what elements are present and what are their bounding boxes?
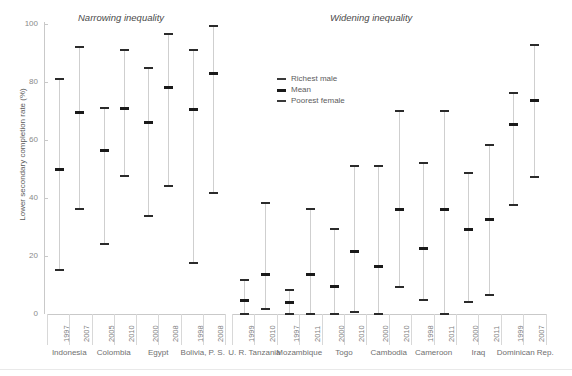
range-mark-poorest-female <box>306 313 315 315</box>
range-stem <box>310 209 311 313</box>
range-stem <box>468 173 469 302</box>
x-axis-year-label: 2008 <box>216 325 225 342</box>
range-mark-mean <box>120 107 129 110</box>
x-axis-year-label: 2000 <box>151 325 160 342</box>
range-mark-mean <box>164 86 173 89</box>
y-tick-label-60: 60 <box>12 136 38 144</box>
y-tick-label-0: 0 <box>12 310 38 318</box>
range-mark-poorest-female <box>330 313 339 315</box>
group-separator <box>456 314 457 345</box>
range-mark-poorest-female <box>209 192 218 194</box>
range-mark-richest-male <box>350 165 359 167</box>
range-mark-richest-male <box>164 33 173 35</box>
x-axis-year-label: 2005 <box>107 325 116 342</box>
x-axis-year-label: 2010 <box>357 325 366 342</box>
group-separator <box>501 314 502 345</box>
y-tick-mark-80 <box>45 82 48 83</box>
range-mark-richest-male <box>120 49 129 51</box>
range-stem <box>399 111 400 288</box>
x-axis-year-label: 2010 <box>268 325 277 342</box>
range-mark-richest-male <box>100 107 109 109</box>
range-mark-poorest-female <box>419 299 428 301</box>
range-stem <box>354 166 355 312</box>
range-mark-richest-male <box>75 46 84 48</box>
range-mark-poorest-female <box>530 176 539 178</box>
range-mark-mean <box>374 265 383 268</box>
range-mark-richest-male <box>530 44 539 46</box>
range-mark-poorest-female <box>285 313 294 315</box>
x-axis-year-label: 1997 <box>292 325 301 342</box>
range-mark-mean <box>464 228 473 231</box>
x-axis-year-label: 1998 <box>196 325 205 342</box>
group-separator <box>92 314 93 345</box>
range-mark-mean <box>285 301 294 304</box>
range-stem <box>124 50 125 176</box>
y-tick-label-100: 100 <box>12 20 38 28</box>
legend-swatch-mean <box>277 89 286 92</box>
range-mark-mean <box>100 149 109 152</box>
range-mark-poorest-female <box>374 313 383 315</box>
range-stem <box>265 203 266 309</box>
y-tick-mark-20 <box>45 256 48 257</box>
x-axis-year-label: 2010 <box>127 325 136 342</box>
range-mark-richest-male <box>485 144 494 146</box>
range-mark-richest-male <box>189 49 198 51</box>
range-mark-richest-male <box>285 289 294 291</box>
range-mark-poorest-female <box>164 185 173 187</box>
panel-title-widening: Widening inequality <box>330 12 412 23</box>
x-axis-year-label: 1999 <box>247 325 256 342</box>
range-mark-poorest-female <box>485 294 494 296</box>
range-mark-richest-male <box>240 279 249 281</box>
range-mark-mean <box>55 168 64 171</box>
legend-label-mean: Mean <box>291 85 311 94</box>
y-tick-mark-100 <box>45 24 48 25</box>
range-mark-poorest-female <box>189 262 198 264</box>
range-mark-richest-male <box>509 92 518 94</box>
range-mark-poorest-female <box>464 301 473 303</box>
x-axis-year-label: 2010 <box>402 325 411 342</box>
range-mark-mean <box>189 108 198 111</box>
range-mark-poorest-female <box>75 208 84 210</box>
x-axis-year-label: 1997 <box>62 325 71 342</box>
range-mark-poorest-female <box>240 313 249 315</box>
y-tick-mark-60 <box>45 140 48 141</box>
range-stem <box>423 163 424 301</box>
range-mark-poorest-female <box>261 308 270 310</box>
range-mark-richest-male <box>374 165 383 167</box>
range-mark-richest-male <box>209 25 218 27</box>
x-axis-year-label: 1998 <box>426 325 435 342</box>
legend-label-richest-male: Richest male <box>291 74 337 83</box>
x-axis-year-label: 2000 <box>381 325 390 342</box>
range-stem <box>513 93 514 205</box>
x-axis-year-label: 2011 <box>447 325 456 341</box>
group-separator <box>225 314 226 345</box>
range-stem <box>444 111 445 314</box>
range-mark-mean <box>209 72 218 75</box>
range-mark-richest-male <box>395 110 404 112</box>
x-axis-year-label: 2008 <box>171 325 180 342</box>
range-mark-richest-male <box>55 78 64 80</box>
x-axis-year-label: 2000 <box>337 325 346 342</box>
range-mark-mean <box>306 273 315 276</box>
legend-swatch-richest-male <box>277 78 286 80</box>
range-stem <box>244 280 245 313</box>
range-mark-poorest-female <box>509 204 518 206</box>
range-stem <box>59 79 60 270</box>
range-mark-mean <box>144 121 153 124</box>
legend-swatch-poorest-female <box>277 100 286 102</box>
range-mark-mean <box>350 250 359 253</box>
y-tick-label-20: 20 <box>12 252 38 260</box>
group-separator <box>277 314 278 345</box>
range-stem <box>104 108 105 244</box>
range-mark-richest-male <box>144 67 153 69</box>
range-mark-richest-male <box>440 110 449 112</box>
range-stem <box>193 50 194 263</box>
range-mark-poorest-female <box>120 175 129 177</box>
range-mark-mean <box>240 299 249 302</box>
range-mark-mean <box>395 208 404 211</box>
range-stem <box>213 26 214 193</box>
x-axis-year-label: 2007 <box>82 325 91 342</box>
range-mark-mean <box>330 285 339 288</box>
group-separator <box>322 314 323 345</box>
inequality-range-chart: Narrowing inequality Widening inequality… <box>0 0 572 376</box>
